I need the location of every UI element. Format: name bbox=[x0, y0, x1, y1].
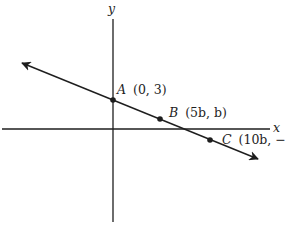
point-b-label: B (5b, b) bbox=[168, 105, 227, 120]
point-a-label: A (0, 3) bbox=[116, 82, 167, 97]
point-c-name: C bbox=[222, 132, 232, 147]
point-c-dot bbox=[207, 137, 213, 143]
point-a-dot bbox=[110, 97, 116, 103]
point-c-coords: (10b, −b) bbox=[239, 132, 285, 147]
point-b-dot bbox=[157, 116, 163, 122]
point-c-label: C (10b, −b) bbox=[222, 132, 285, 147]
point-b-coords: (5b, b) bbox=[185, 105, 227, 120]
coordinate-plane-diagram: y x A (0, 3) B (5b, b) C (10b, −b) bbox=[0, 0, 285, 226]
point-a-name: A bbox=[116, 82, 126, 97]
point-b-name: B bbox=[168, 105, 178, 120]
y-axis-label: y bbox=[107, 1, 116, 16]
point-a-coords: (0, 3) bbox=[133, 82, 167, 97]
